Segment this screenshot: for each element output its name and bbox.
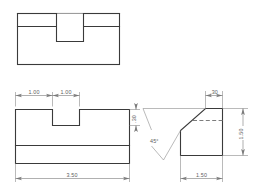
leader-line-angle-upper [143,109,152,131]
side-dim-height-group: 1.50 [223,109,249,156]
dim-label-notch-left: 1.00 [28,89,39,95]
side-dim-width-group: 1.50 [181,156,223,183]
dim-label-chamfer-angle: 45° [150,138,159,144]
dim-label-notch-depth: .30 [131,115,137,123]
side-view-outline [181,109,223,156]
dim-label-overall-width: 3.50 [66,172,77,178]
dim-label-side-top-flat: .30 [210,89,218,95]
top-view-group [18,14,120,65]
front-dim-depth-group: .30 [130,104,141,131]
front-dim-notch-group: 1.00 1.00 [16,89,80,107]
side-dim-top-group: .30 [206,89,223,109]
front-view-outline [16,110,130,164]
top-view-notch-outline [57,14,84,42]
leader-line-angle-lower [152,146,164,160]
drawing-sheet: 1.00 1.00 .30 3.50 [0,0,257,190]
front-view-group [16,110,130,164]
engineering-drawing-canvas: 1.00 1.00 .30 3.50 [0,0,257,190]
front-dim-overall-group: 3.50 [16,164,130,183]
dim-label-notch-width: 1.00 [60,89,71,95]
ext-line-chamfer-extend [164,131,181,161]
side-view-group [181,109,223,156]
dim-label-side-width: 1.50 [196,172,207,178]
dim-label-side-height: 1.50 [238,128,244,139]
